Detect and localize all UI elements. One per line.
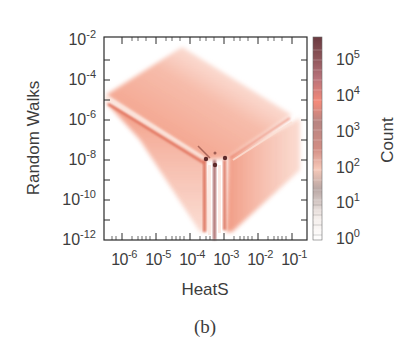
figure-caption: (b) — [194, 316, 216, 338]
colorbar-tick-label: 104 — [336, 88, 386, 104]
y-axis-label: Random Walks — [24, 81, 44, 196]
x-axis-label: HeatS — [181, 280, 228, 300]
colorbar-tick-label: 100 — [336, 231, 386, 247]
figure: 10-2 10-4 10-6 10-8 10-10 10-12 10-6 10-… — [0, 0, 410, 356]
y-tick-label: 10-12 — [46, 232, 96, 248]
y-tick-label: 10-8 — [46, 152, 96, 168]
colorbar-tick-label: 101 — [336, 195, 386, 211]
y-tick-label: 10-2 — [46, 32, 96, 48]
colorbar-tick-label: 105 — [336, 52, 386, 68]
colorbar-label: Count — [378, 117, 398, 162]
y-tick-label: 10-10 — [46, 192, 96, 208]
colorbar — [313, 37, 322, 240]
y-tick-label: 10-4 — [46, 72, 96, 88]
y-tick-label: 10-6 — [46, 112, 96, 128]
x-tick-label: 10-1 — [274, 252, 314, 268]
